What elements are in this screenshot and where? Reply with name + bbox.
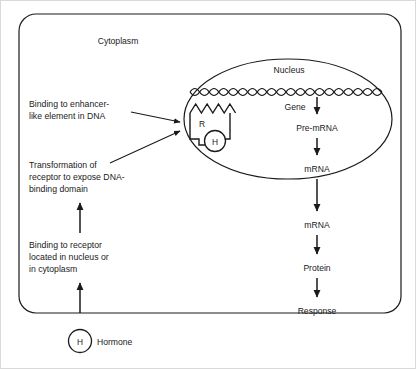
annotation-receptor-binding-line-2: located in nucleus or xyxy=(29,252,109,262)
pathway-step-mrna-nuclear: mRNA xyxy=(304,164,330,174)
hormone-label: Hormone xyxy=(97,337,133,347)
cytoplasm-label: Cytoplasm xyxy=(98,36,139,46)
annotation-receptor-binding-line-1: Binding to receptor xyxy=(29,240,102,250)
pathway-step-pre-mrna: Pre-mRNA xyxy=(296,123,338,133)
nucleus-label: Nucleus xyxy=(273,65,304,75)
annotation-enhancer-binding-line-2: like element in DNA xyxy=(29,111,105,121)
pathway-step-mrna-cytoplasmic: mRNA xyxy=(304,220,330,230)
annotation-enhancer-binding-line-1: Binding to enhancer- xyxy=(29,99,109,109)
annotation-receptor-transformation-line-3: binding domain xyxy=(29,184,88,194)
receptor-symbol: R xyxy=(199,119,205,129)
pathway-step-response: Response xyxy=(298,306,337,316)
hormone-signaling-diagram: Cytoplasm Nucleus R H Binding to enhance… xyxy=(0,0,416,369)
pathway-step-protein: Protein xyxy=(303,263,330,273)
annotation-receptor-transformation-line-2: receptor to expose DNA- xyxy=(29,172,125,182)
annotation-receptor-binding-line-3: in cytoplasm xyxy=(29,264,77,274)
gene-label: Gene xyxy=(284,102,305,112)
hormone-symbol: H xyxy=(77,337,83,347)
diagram-canvas: Cytoplasm Nucleus R H Binding to enhance… xyxy=(0,0,416,369)
bound-hormone-symbol: H xyxy=(212,137,218,147)
annotation-receptor-transformation-line-1: Transformation of xyxy=(29,160,97,170)
